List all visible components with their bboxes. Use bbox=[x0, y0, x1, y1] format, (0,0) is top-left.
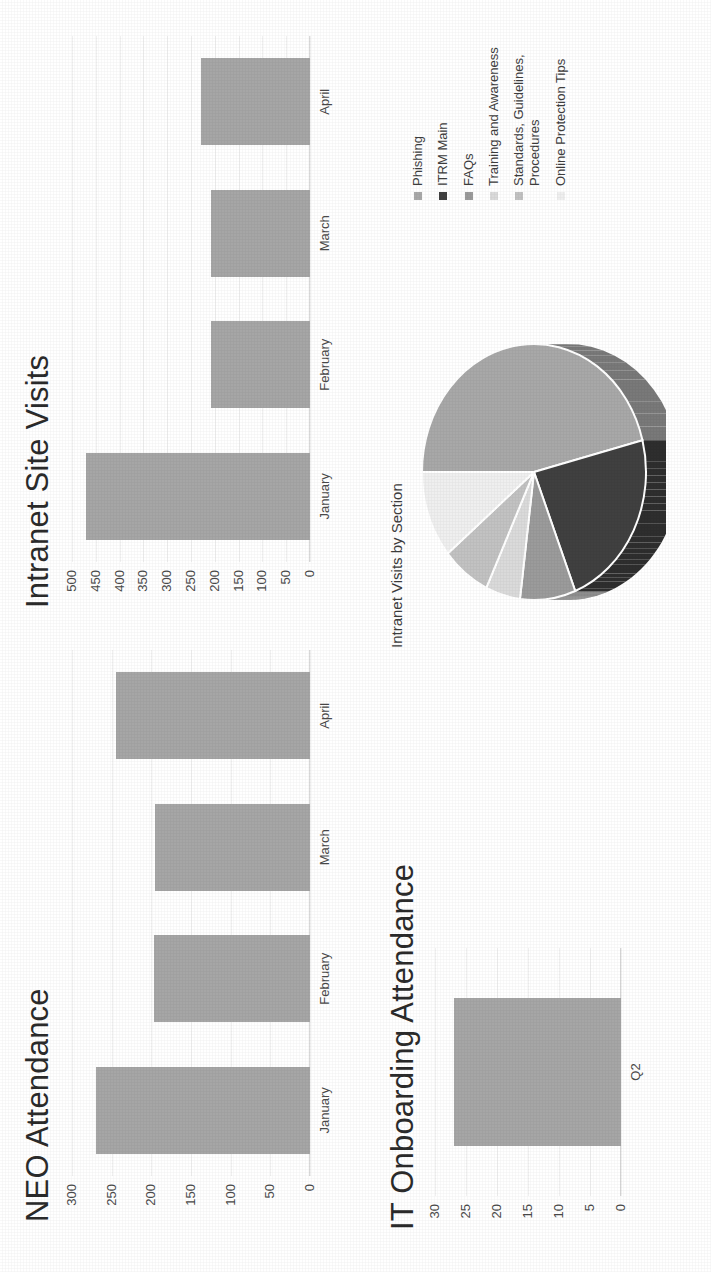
gridline bbox=[72, 36, 73, 562]
pie-slice-side bbox=[636, 517, 666, 524]
y-tick-label: 200 bbox=[207, 570, 222, 608]
pie-slice-side bbox=[639, 510, 666, 517]
scanned-page-rotation-wrapper: NEO Attendance 050100150200250300 Januar… bbox=[0, 0, 711, 1272]
pie-slice-side bbox=[616, 554, 654, 559]
pie-svg bbox=[416, 212, 666, 642]
pie-slice-side bbox=[602, 569, 641, 573]
pie-slice-side bbox=[565, 594, 601, 595]
plot-area-intranet-site-visits bbox=[72, 36, 310, 562]
y-tick-label: 0 bbox=[302, 570, 317, 608]
x-category-label: April bbox=[317, 36, 332, 168]
y-tick-label: 150 bbox=[231, 570, 246, 608]
chart-title-it-onboarding-attendance: IT Onboarding Attendance bbox=[385, 864, 421, 1230]
y-tick-label: 25 bbox=[458, 1204, 473, 1242]
x-category-label: February bbox=[317, 913, 332, 1045]
gridline bbox=[621, 948, 622, 1196]
legend-swatch-icon bbox=[557, 192, 565, 200]
y-tick-label: 5 bbox=[582, 1204, 597, 1242]
pie-slice-side bbox=[567, 594, 603, 595]
y-tick-label: 50 bbox=[262, 1184, 277, 1222]
y-tick-label: 250 bbox=[104, 1184, 119, 1222]
pie-slice-side bbox=[563, 595, 599, 596]
legend-swatch-icon bbox=[490, 192, 498, 200]
plot-area-neo-attendance bbox=[72, 650, 310, 1176]
y-tick-label: 10 bbox=[551, 1204, 566, 1242]
pie-slice-side bbox=[634, 524, 666, 530]
pie-slice-side bbox=[561, 596, 597, 597]
pie-slice-side bbox=[642, 440, 666, 447]
bar bbox=[86, 453, 310, 540]
pie-slice-side bbox=[646, 468, 666, 475]
bar bbox=[454, 998, 621, 1147]
pie-slice-side bbox=[644, 490, 666, 497]
gridline bbox=[310, 36, 311, 562]
legend-swatch-icon bbox=[465, 192, 473, 200]
bar bbox=[116, 672, 310, 759]
legend-label: Online Protection Tips bbox=[553, 59, 569, 186]
plot-area-it-onboarding-attendance bbox=[435, 948, 621, 1196]
document-page: NEO Attendance 050100150200250300 Januar… bbox=[0, 0, 711, 1272]
y-tick-label: 100 bbox=[254, 570, 269, 608]
legend-label: FAQs bbox=[461, 153, 477, 186]
x-category-label: February bbox=[317, 299, 332, 431]
y-tick-label: 30 bbox=[427, 1204, 442, 1242]
legend-item[interactable]: Online Protection Tips bbox=[553, 25, 569, 200]
x-category-label: March bbox=[317, 168, 332, 300]
pie-slice-side bbox=[624, 542, 662, 548]
gridline bbox=[310, 650, 311, 1176]
pie-slice-side bbox=[612, 559, 650, 564]
bar bbox=[96, 1067, 310, 1154]
y-tick-label: 50 bbox=[278, 570, 293, 608]
pie-graphic bbox=[416, 212, 666, 642]
chart-it-onboarding-attendance: IT Onboarding Attendance 051015202530 Q2 bbox=[385, 936, 685, 1236]
gridline bbox=[435, 948, 436, 1196]
pie-slice-side bbox=[643, 497, 666, 504]
chart-neo-attendance: NEO Attendance 050100150200250300 Januar… bbox=[18, 636, 348, 1236]
legend-item[interactable]: Standards, Guidelines, Procedures bbox=[511, 25, 544, 200]
pie-slice-side bbox=[645, 454, 666, 461]
bar bbox=[155, 804, 310, 891]
bar bbox=[154, 935, 310, 1022]
legend-item[interactable]: ITRM Main bbox=[435, 25, 451, 200]
chart-title-intranet-site-visits: Intranet Site Visits bbox=[20, 355, 56, 608]
legend-swatch-icon bbox=[515, 192, 523, 200]
pie-slice-side bbox=[628, 536, 665, 542]
y-tick-label: 0 bbox=[613, 1204, 628, 1242]
y-tick-label: 20 bbox=[489, 1204, 504, 1242]
x-category-label: Q2 bbox=[628, 948, 643, 1196]
pie-slice-side bbox=[607, 564, 646, 569]
legend-item[interactable]: Phishing bbox=[410, 25, 426, 200]
y-tick-label: 450 bbox=[88, 570, 103, 608]
y-tick-label: 150 bbox=[183, 1184, 198, 1222]
legend-item[interactable]: Training and Awareness bbox=[486, 25, 502, 200]
y-tick-label: 250 bbox=[183, 570, 198, 608]
x-category-label: April bbox=[317, 650, 332, 782]
pie-slice-side bbox=[644, 447, 666, 454]
x-category-label: January bbox=[317, 1045, 332, 1177]
chart-title-intranet-visits-by-section: Intranet Visits by Section bbox=[388, 483, 405, 648]
y-tick-label: 15 bbox=[520, 1204, 535, 1242]
legend-label: ITRM Main bbox=[435, 122, 451, 186]
pie-slice-side bbox=[597, 574, 636, 578]
legend-item[interactable]: FAQs bbox=[461, 25, 477, 200]
pie-slice-side bbox=[571, 592, 607, 593]
bar bbox=[211, 190, 310, 277]
gridline bbox=[72, 650, 73, 1176]
chart-intranet-visits-by-section: Intranet Visits by Section PhishingITRM … bbox=[388, 22, 688, 652]
chart-title-neo-attendance: NEO Attendance bbox=[20, 988, 56, 1222]
legend-swatch-icon bbox=[414, 192, 422, 200]
pie-slice-side bbox=[620, 548, 658, 554]
pie-slice-side bbox=[646, 461, 666, 468]
y-tick-label: 350 bbox=[135, 570, 150, 608]
y-tick-label: 500 bbox=[64, 570, 79, 608]
legend-label: Phishing bbox=[410, 136, 426, 186]
pie-slice-side bbox=[641, 504, 666, 511]
y-tick-label: 400 bbox=[112, 570, 127, 608]
pie-legend: PhishingITRM MainFAQsTraining and Awaren… bbox=[410, 25, 578, 200]
legend-label: Standards, Guidelines, Procedures bbox=[511, 54, 544, 186]
x-category-label: March bbox=[317, 782, 332, 914]
legend-swatch-icon bbox=[439, 192, 447, 200]
x-category-label: January bbox=[317, 431, 332, 563]
legend-label: Training and Awareness bbox=[486, 47, 502, 186]
pie-slice-side bbox=[573, 591, 609, 592]
